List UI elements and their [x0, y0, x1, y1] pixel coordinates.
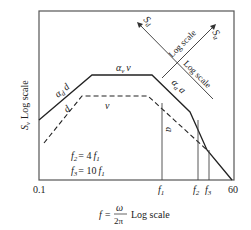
x-tick-f1: f1	[158, 184, 164, 197]
x-axis-lhs: f =	[99, 209, 111, 220]
v-label: v	[105, 100, 110, 111]
relation-f2: f2= 4f1	[71, 150, 100, 163]
x-axis-denominator: 2π	[114, 216, 124, 226]
y-axis-label: SvLog scale	[19, 80, 32, 130]
alpha-d-d-label: αdd	[52, 80, 73, 101]
a-label: a	[164, 127, 175, 132]
response-spectrum-diagram: Sd Log scale Sa Log scale αdd αvv αaa d …	[0, 0, 251, 230]
d-label: d	[61, 102, 73, 114]
x-axis-label: Log scale	[131, 209, 170, 220]
alpha-v-v-label: αvv	[116, 62, 131, 75]
x-tick-60: 60	[228, 184, 238, 195]
x-axis-numerator: ω	[116, 202, 123, 213]
x-tick-0-1: 0.1	[33, 184, 46, 195]
relation-f3: f3= 10f1	[71, 165, 105, 178]
sa-axis-label: Log scale	[166, 28, 198, 60]
x-tick-f3: f3	[205, 184, 212, 197]
sd-axis-symbol: Sd	[140, 14, 156, 30]
x-tick-f2: f2	[193, 184, 200, 197]
